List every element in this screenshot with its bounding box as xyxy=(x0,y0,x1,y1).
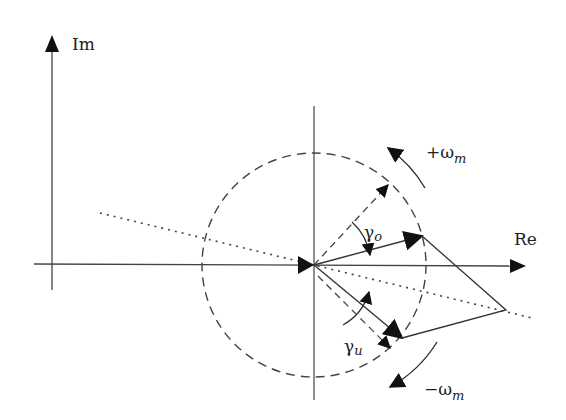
imag-axis xyxy=(45,35,59,290)
phasor-diagram: Im Re γo γu +ωm −ωm xyxy=(0,0,566,420)
gamma-u-arc xyxy=(343,292,369,325)
phasor-lower xyxy=(314,265,402,338)
minus-omega-label: −ωm xyxy=(424,379,464,403)
gamma-o-label: γo xyxy=(364,222,382,244)
imag-axis-arrow-icon xyxy=(45,35,59,52)
origin-arrow-icon xyxy=(298,256,314,274)
real-axis-arrow-icon xyxy=(510,259,526,273)
dashed-phasor-upper xyxy=(314,185,388,265)
plus-omega-rotation-arc xyxy=(388,148,425,188)
real-axis-label: Re xyxy=(514,229,537,249)
phasor-sum-triangle xyxy=(402,236,506,338)
plus-omega-label: +ωm xyxy=(426,142,466,166)
gamma-u-label: γu xyxy=(344,336,363,358)
real-axis xyxy=(34,259,526,273)
imag-axis-label: Im xyxy=(72,34,95,54)
